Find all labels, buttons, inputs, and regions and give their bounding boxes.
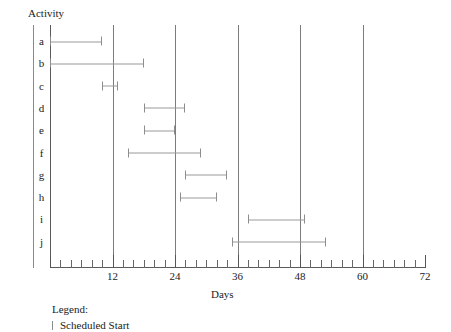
bar-duration-line [185,175,227,176]
scheduled-start-marker-icon [180,193,181,202]
tick-minor [321,260,322,268]
tick-minor [310,260,311,268]
tick-major [300,255,301,268]
legend: Legend: Scheduled Start [52,303,129,331]
tick-major [363,255,364,268]
tick-minor [352,260,353,268]
bar-duration-line [144,108,186,109]
tick-minor [415,260,416,268]
scheduled-end-marker-icon [325,237,326,246]
scheduled-end-marker-icon [117,81,118,90]
scheduled-end-marker-icon [184,103,185,112]
tick-major [425,255,426,268]
tick-minor [144,260,145,268]
scheduled-end-marker-icon [226,170,227,179]
scheduled-end-marker-icon [143,59,144,68]
gantt-bar [144,126,175,135]
legend-item-label: Scheduled Start [60,319,129,331]
activity-row-label: b [33,57,50,69]
tick-minor [60,260,61,268]
x-tick-label: 24 [170,270,181,282]
tick-minor [196,260,197,268]
tick-minor [81,260,82,268]
tick-minor [258,260,259,268]
gantt-bar [248,215,305,224]
gantt-bar [232,237,326,246]
tick-minor [342,260,343,268]
gridline [300,25,301,267]
bar-duration-line [248,219,305,220]
tick-minor [373,260,374,268]
scheduled-start-marker-icon [232,237,233,246]
tick-minor [217,260,218,268]
scheduled-start-marker-icon [102,81,103,90]
activity-row-label: i [33,213,50,225]
tick-major [175,255,176,268]
scheduled-end-marker-icon [200,148,201,157]
scheduled-start-marker-icon [248,215,249,224]
scheduled-start-marker-icon [50,37,51,46]
tick-minor [394,260,395,268]
bar-duration-line [102,86,118,87]
scheduled-start-marker-icon [185,170,186,179]
x-tick-label: 48 [295,270,306,282]
tick-minor [227,260,228,268]
gantt-bar [50,37,102,46]
scheduled-start-marker-icon [144,103,145,112]
tick-minor [290,260,291,268]
activity-row-label: a [33,35,50,47]
scheduled-start-marker-icon [128,148,129,157]
x-tick-label: 72 [420,270,431,282]
legend-title: Legend: [52,303,129,315]
activity-row-label: c [33,80,50,92]
tick-major [238,255,239,268]
activity-row-label: g [33,169,50,181]
tick-minor [206,260,207,268]
tick-minor [279,260,280,268]
scheduled-end-marker-icon [304,215,305,224]
gantt-bar [185,170,227,179]
tick-minor [185,260,186,268]
scheduled-start-marker-icon [52,321,53,330]
activity-row-label: f [33,147,50,159]
tick-minor [92,260,93,268]
gantt-bar [50,59,144,68]
scheduled-end-marker-icon [174,126,175,135]
gridline [363,25,364,267]
tick-minor [248,260,249,268]
x-tick-label: 36 [232,270,243,282]
x-tick-label: 12 [107,270,118,282]
tick-minor [71,260,72,268]
activity-row-label: j [33,236,50,248]
activity-row-label: e [33,124,50,136]
legend-item: Scheduled Start [52,319,129,331]
activity-row-label: h [33,191,50,203]
bar-duration-line [128,153,201,154]
tick-minor [269,260,270,268]
scheduled-start-marker-icon [144,126,145,135]
gantt-bar [128,148,201,157]
tick-minor [383,260,384,268]
bar-duration-line [180,197,216,198]
tick-minor [102,260,103,268]
x-tick-label: 60 [357,270,368,282]
bar-duration-line [50,63,144,64]
gridline [175,25,176,267]
tick-minor [154,260,155,268]
tick-minor [404,260,405,268]
scheduled-end-marker-icon [216,193,217,202]
activity-row-label: d [33,102,50,114]
bar-duration-line [144,130,175,131]
scheduled-end-marker-icon [101,37,102,46]
gantt-chart: Activity 122436486072 abcdefghij Days Le… [0,0,451,332]
bar-duration-line [232,242,326,243]
gridline [238,25,239,267]
gantt-bar [180,193,216,202]
gantt-bar [144,103,186,112]
tick-major [50,255,51,268]
x-axis-title: Days [211,288,234,300]
tick-minor [165,260,166,268]
bar-duration-line [50,41,102,42]
gantt-bar [102,81,118,90]
scheduled-start-marker-icon [50,59,51,68]
